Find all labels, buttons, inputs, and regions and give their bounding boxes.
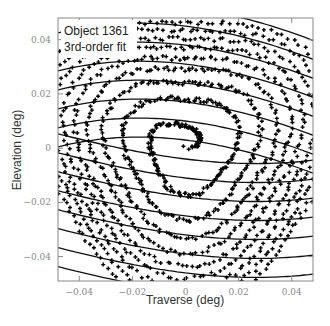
- data-point: [77, 148, 81, 152]
- data-point: [140, 276, 144, 280]
- data-point: [175, 235, 179, 239]
- data-point: [270, 177, 274, 181]
- data-point: [134, 84, 138, 88]
- data-point: [293, 38, 297, 42]
- data-point: [289, 215, 293, 219]
- data-point: [73, 198, 77, 202]
- data-point: [142, 212, 146, 216]
- data-point: [228, 22, 232, 26]
- data-point: [206, 80, 210, 84]
- data-point: [114, 195, 118, 199]
- data-point: [96, 94, 100, 98]
- data-point: [283, 149, 287, 153]
- data-point: [238, 240, 242, 244]
- data-point: [269, 28, 273, 32]
- data-point: [212, 243, 216, 247]
- data-point: [300, 75, 304, 79]
- data-point: [135, 269, 139, 273]
- data-point: [232, 29, 236, 33]
- data-point: [110, 226, 114, 230]
- data-point: [91, 182, 95, 186]
- data-point: [304, 209, 308, 213]
- data-point: [295, 170, 299, 174]
- data-point: [287, 170, 291, 174]
- data-point: [277, 129, 281, 133]
- data-point: [262, 28, 266, 32]
- data-point: [263, 166, 267, 170]
- data-point: [57, 184, 61, 188]
- data-point: [96, 201, 100, 205]
- data-point: [303, 192, 307, 196]
- data-point: [74, 113, 78, 117]
- x-tick-label: −0.04: [65, 287, 93, 297]
- fit-line: [58, 99, 313, 135]
- data-point: [248, 53, 252, 57]
- data-point: [267, 61, 271, 65]
- data-point: [87, 65, 91, 69]
- data-point: [308, 142, 312, 146]
- data-point: [189, 30, 193, 34]
- x-tick-label: 0.02: [229, 287, 249, 297]
- data-point: [273, 186, 277, 190]
- data-point: [68, 206, 72, 210]
- data-point: [161, 247, 165, 251]
- data-point: [280, 89, 284, 93]
- data-point: [288, 49, 292, 53]
- y-axis-label: Elevation (deg): [10, 110, 24, 191]
- data-point: [161, 28, 165, 32]
- data-point: [303, 80, 307, 84]
- data-point: [178, 58, 182, 62]
- data-point: [223, 240, 227, 244]
- data-point: [130, 266, 134, 270]
- data-point: [129, 251, 133, 255]
- data-point: [65, 201, 69, 205]
- data-point: [126, 233, 130, 237]
- data-point: [84, 187, 88, 191]
- data-point: [255, 52, 259, 56]
- data-point: [254, 83, 258, 87]
- data-point: [154, 126, 158, 130]
- data-point: [256, 42, 260, 46]
- data-point: [283, 92, 287, 96]
- x-tick-label: −0.02: [119, 287, 147, 297]
- data-point: [164, 20, 168, 24]
- data-point: [281, 153, 285, 157]
- data-point: [87, 226, 91, 230]
- data-point: [65, 142, 69, 146]
- data-point: [258, 56, 262, 60]
- data-point: [74, 220, 78, 224]
- data-point: [160, 19, 164, 23]
- data-point: [249, 102, 253, 106]
- data-point: [119, 229, 123, 233]
- data-point: [206, 22, 210, 26]
- data-point: [169, 247, 173, 251]
- data-point: [77, 76, 81, 80]
- data-point: [146, 275, 150, 279]
- legend-entry-fit: 3rd-order fit: [64, 40, 127, 54]
- data-point: [100, 243, 104, 247]
- data-point: [57, 175, 61, 179]
- data-point: [154, 260, 158, 264]
- data-point: [212, 260, 216, 264]
- data-point: [222, 266, 226, 270]
- data-point: [298, 211, 302, 215]
- data-point: [181, 264, 185, 268]
- data-point: [259, 246, 263, 250]
- data-point: [170, 58, 174, 62]
- chart: −0.04−0.0200.020.04 −0.04−0.0200.020.04 …: [0, 0, 330, 326]
- data-point: [256, 130, 260, 134]
- data-point: [82, 68, 86, 72]
- data-point: [236, 22, 240, 26]
- data-point: [296, 207, 300, 211]
- data-point: [272, 173, 276, 177]
- data-point: [121, 211, 125, 215]
- x-axis-label: Traverse (deg): [146, 293, 224, 307]
- data-point: [139, 249, 143, 253]
- data-point: [202, 217, 206, 221]
- data-point: [77, 98, 81, 102]
- data-point: [264, 267, 268, 271]
- data-point: [300, 98, 304, 102]
- y-tick-label: 0: [45, 143, 51, 153]
- data-point: [273, 145, 277, 149]
- data-point: [182, 38, 186, 42]
